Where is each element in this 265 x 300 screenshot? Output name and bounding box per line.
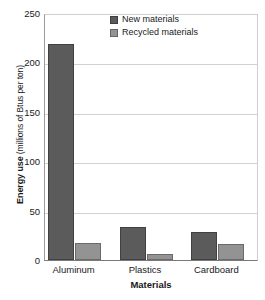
- y-axis-tick-label: 50: [0, 207, 40, 217]
- x-axis-tick-labels: AluminumPlasticsCardboard: [44, 265, 258, 279]
- x-axis-tick-label: Aluminum: [53, 265, 95, 275]
- bar-group: [120, 15, 173, 260]
- legend-item: Recycled materials: [110, 28, 198, 37]
- bar: [218, 244, 244, 260]
- bar: [147, 254, 173, 260]
- y-axis-tick-labels: 050100150200250: [0, 0, 42, 300]
- chart-legend: New materialsRecycled materials: [110, 15, 198, 41]
- x-axis-title: Materials: [44, 280, 258, 290]
- y-axis-tick-label: 0: [0, 256, 40, 266]
- x-axis-tick-label: Cardboard: [194, 265, 239, 275]
- legend-swatch-icon: [110, 29, 118, 37]
- bar: [191, 232, 217, 260]
- legend-label: New materials: [122, 15, 179, 24]
- plot-area: [44, 14, 258, 261]
- bar-group: [191, 15, 244, 260]
- bars-layer: [45, 15, 257, 260]
- bar: [120, 227, 146, 260]
- bar: [48, 44, 74, 260]
- y-axis-tick-label: 200: [0, 59, 40, 69]
- bar-chart: Energy use (millions of Btus per ton) 05…: [0, 0, 265, 300]
- x-axis-tick-label: Plastics: [129, 265, 162, 275]
- y-axis-tick-label: 150: [0, 108, 40, 118]
- bar-group: [48, 15, 101, 260]
- legend-swatch-icon: [110, 16, 118, 24]
- y-axis-tick-label: 250: [0, 9, 40, 19]
- legend-item: New materials: [110, 15, 198, 24]
- bar: [75, 243, 101, 260]
- legend-label: Recycled materials: [122, 28, 198, 37]
- y-axis-tick-label: 100: [0, 157, 40, 167]
